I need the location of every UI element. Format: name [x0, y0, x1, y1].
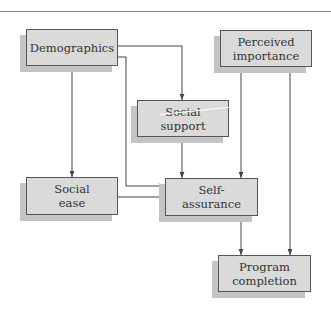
- node-demographics: Demographics: [26, 29, 118, 66]
- node-program-completion: Program completion: [218, 255, 311, 292]
- edge-demographics-to-social-support: [118, 46, 182, 100]
- node-self-assurance: Self- assurance: [165, 178, 258, 216]
- path-diagram: DemographicsPerceived importanceSocial s…: [0, 0, 331, 315]
- node-social-ease: Social ease: [26, 177, 118, 215]
- node-social-support: Social support: [137, 100, 229, 137]
- node-perceived-importance: Perceived importance: [220, 30, 312, 67]
